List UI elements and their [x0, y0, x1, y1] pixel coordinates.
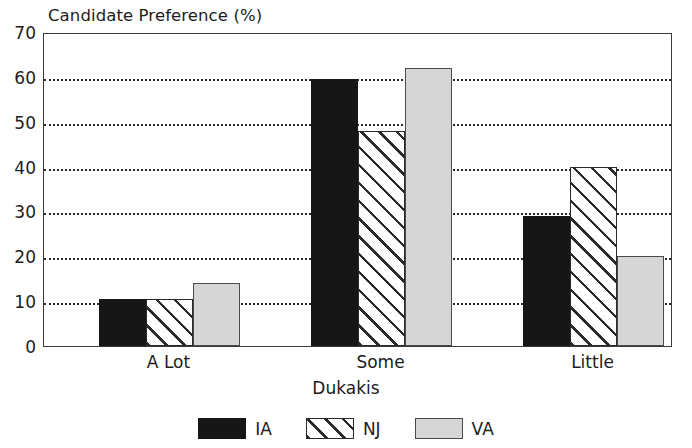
y-axis-tick-10: 10: [0, 292, 36, 312]
x-axis-tick-little: Little: [571, 352, 614, 372]
y-axis-tick-50: 50: [0, 113, 36, 133]
y-axis-tick-20: 20: [0, 247, 36, 267]
bars-layer: [44, 34, 671, 346]
y-axis-tick-0: 0: [0, 337, 36, 357]
legend-item-va: VA: [415, 418, 494, 439]
chart-title: Candidate Preference (%): [48, 6, 262, 25]
bar-nj-a-lot: [146, 299, 193, 346]
legend-swatch-va-icon: [415, 418, 463, 439]
x-axis-label: Dukakis: [0, 378, 692, 398]
y-axis-tick-40: 40: [0, 158, 36, 178]
x-axis-tick-a-lot: A Lot: [147, 352, 190, 372]
plot-inner: [44, 34, 671, 346]
legend-label-va: VA: [472, 419, 494, 439]
bar-nj-little: [570, 167, 617, 346]
legend-swatch-nj-icon: [306, 418, 354, 439]
plot-area: [43, 33, 672, 347]
bar-nj-some: [358, 131, 405, 346]
bar-ia-a-lot: [99, 299, 146, 346]
y-axis-tick-60: 60: [0, 68, 36, 88]
y-axis-tick-70: 70: [0, 23, 36, 43]
y-axis-tick-30: 30: [0, 202, 36, 222]
x-axis-tick-some: Some: [356, 352, 404, 372]
legend-item-ia: IA: [198, 418, 272, 439]
bar-ia-some: [311, 79, 358, 346]
legend-label-ia: IA: [255, 419, 272, 439]
y-axis-tick-labels: 010203040506070: [0, 33, 36, 347]
bar-ia-little: [523, 216, 570, 346]
bar-va-some: [405, 68, 452, 346]
bar-va-a-lot: [193, 283, 240, 346]
legend-item-nj: NJ: [306, 418, 381, 439]
chart-legend: IANJVA: [0, 418, 692, 439]
legend-label-nj: NJ: [363, 419, 381, 439]
bar-va-little: [617, 256, 664, 346]
legend-swatch-ia-icon: [198, 418, 246, 439]
bar-chart: Candidate Preference (%) 010203040506070…: [0, 0, 692, 448]
